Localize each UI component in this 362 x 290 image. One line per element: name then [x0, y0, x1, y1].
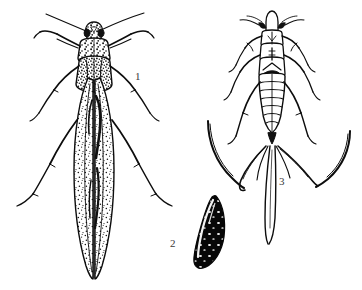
figure-label-2: 2	[170, 238, 176, 249]
illustration-plate: 1 2 3	[0, 0, 362, 290]
figure-label-3: 3	[279, 176, 285, 187]
nymph-thorax	[259, 30, 285, 78]
illustration-canvas	[0, 0, 362, 290]
plate-background	[0, 0, 362, 290]
figure-label-1: 1	[135, 71, 141, 82]
